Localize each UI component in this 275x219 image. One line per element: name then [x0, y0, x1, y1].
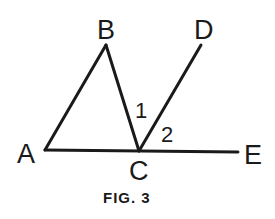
line-ae — [45, 150, 238, 152]
point-label-d: D — [194, 15, 214, 45]
geometry-figure: B D A C E 1 2 FIG. 3 — [0, 0, 275, 219]
point-label-a: A — [17, 139, 35, 169]
angle-label-1: 1 — [135, 98, 147, 123]
segment-ab — [45, 45, 106, 150]
point-label-e: E — [244, 140, 262, 170]
figure-caption: FIG. 3 — [103, 189, 151, 206]
point-label-c: C — [129, 156, 149, 186]
angle-label-2: 2 — [161, 122, 173, 147]
point-label-b: B — [97, 15, 115, 45]
